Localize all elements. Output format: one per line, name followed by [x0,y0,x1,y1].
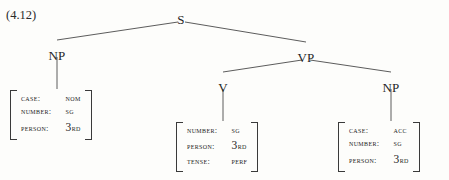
matrix-body: Case:AccNumber:SgPerson:3rd [345,122,413,172]
feature-attribute: Number: [21,106,66,119]
matrix-left-bracket [10,90,17,140]
feature-matrix-m2: Number:SgPerson:3rdTense:Perf [176,122,258,172]
feature-value: Acc [394,125,409,138]
tree-node-v: V [218,80,228,96]
tree-node-s: S [177,12,185,28]
feature-row: Tense:Perf [187,156,247,169]
tree-edge-vp-to-np2 [310,60,391,72]
feature-row: Number:Sg [21,106,81,119]
syntax-tree-figure: (4.12) SNPVPVNP Case:NomNumber:SgPerson:… [0,0,449,180]
feature-attribute: Tense: [187,156,232,169]
matrix-left-bracket [176,122,183,172]
feature-table: Case:AccNumber:SgPerson:3rd [349,125,409,169]
feature-attribute: Number: [349,138,394,151]
tree-node-vp: VP [297,50,314,66]
feature-row: Person:3rd [349,152,409,169]
feature-table: Case:NomNumber:SgPerson:3rd [21,93,81,137]
feature-matrix-m3: Case:AccNumber:SgPerson:3rd [338,122,420,172]
feature-attribute: Person: [21,120,66,137]
feature-row: Case:Nom [21,93,81,106]
tree-node-np2: NP [382,80,399,96]
feature-value: 3rd [232,138,248,155]
feature-row: Person:3rd [187,138,247,155]
matrix-body: Case:NomNumber:SgPerson:3rd [17,90,85,140]
feature-row: Number:Sg [187,125,247,138]
matrix-left-bracket [338,122,345,172]
ordinal-suffix: rd [238,141,247,151]
matrix-right-bracket [85,90,92,140]
feature-value: Sg [394,138,409,151]
feature-attribute: Person: [349,152,394,169]
feature-attribute: Number: [187,125,232,138]
feature-row: Person:3rd [21,120,81,137]
tree-edge-vp-to-v [223,60,302,72]
feature-value: Sg [66,106,81,119]
feature-table: Number:SgPerson:3rdTense:Perf [187,125,247,169]
feature-attribute: Case: [21,93,66,106]
feature-attribute: Person: [187,138,232,155]
feature-attribute: Case: [349,125,394,138]
feature-value: 3rd [394,152,409,169]
ordinal-suffix: rd [400,155,409,165]
feature-value: Nom [66,93,81,106]
feature-row: Number:Sg [349,138,409,151]
feature-matrix-m1: Case:NomNumber:SgPerson:3rd [10,90,92,140]
matrix-right-bracket [413,122,420,172]
feature-value: 3rd [66,120,81,137]
matrix-body: Number:SgPerson:3rdTense:Perf [183,122,251,172]
feature-value: Perf [232,156,248,169]
tree-node-np1: NP [48,48,65,64]
ordinal-suffix: rd [72,123,81,133]
example-number-label: (4.12) [6,8,36,23]
matrix-right-bracket [251,122,258,172]
tree-edge-s-to-vp [185,22,306,42]
feature-value: Sg [232,125,248,138]
tree-edge-s-to-np1 [57,22,178,40]
feature-row: Case:Acc [349,125,409,138]
